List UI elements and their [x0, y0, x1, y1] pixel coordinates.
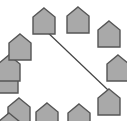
diagram-canvas [0, 0, 127, 121]
node-link-diagram [0, 0, 127, 121]
